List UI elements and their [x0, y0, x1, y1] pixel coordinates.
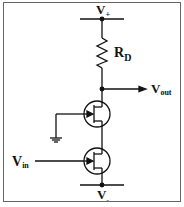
- v-plus-label: V+: [96, 2, 110, 19]
- vin-label: Vin: [12, 154, 29, 170]
- ground-icon: [50, 138, 62, 142]
- resistor-rd-icon: [97, 38, 107, 68]
- jfet-lower-icon: [84, 148, 110, 185]
- vout-arrow-icon: [139, 87, 146, 92]
- rd-label: RD: [114, 45, 131, 63]
- v-minus-label: V-: [97, 187, 109, 204]
- vout-label: Vout: [151, 81, 172, 97]
- circuit-diagram: V+ RD Vout Vin V-: [0, 0, 184, 207]
- jfet-upper-icon: [84, 101, 110, 148]
